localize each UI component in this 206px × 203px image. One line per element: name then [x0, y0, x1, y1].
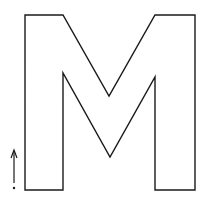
letter-m-outline: [25, 15, 195, 190]
start-dot-icon: [13, 187, 15, 189]
stroke-direction-arrow-icon: [11, 150, 17, 189]
letter-m-diagram: [0, 0, 206, 203]
